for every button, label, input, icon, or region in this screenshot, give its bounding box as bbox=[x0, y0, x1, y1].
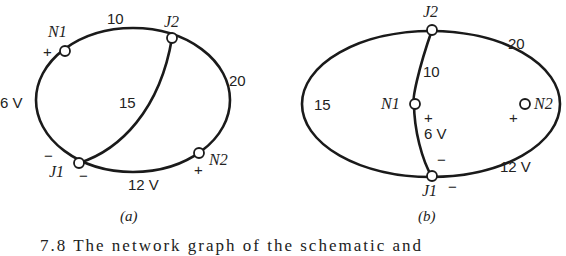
node-label-j2-b: J2 bbox=[423, 4, 438, 19]
source-label-center-b: 6 V bbox=[424, 126, 447, 141]
node-j2-b bbox=[427, 25, 437, 35]
branch-label-center-top-b: 10 bbox=[423, 64, 440, 79]
node-n2-b bbox=[520, 99, 530, 109]
node-label-n1-b: N1 bbox=[381, 96, 400, 111]
branch-label-top-a: 10 bbox=[107, 11, 124, 26]
source-label-bottom-right-b: 12 V bbox=[500, 159, 531, 174]
sign-j1-minus-bottom-a: − bbox=[79, 168, 88, 183]
sign-n1-plus-a: + bbox=[43, 44, 52, 59]
figure-a-label: (a) bbox=[120, 208, 138, 225]
sign-j1-minus-left-a: − bbox=[44, 148, 53, 163]
node-j1-b bbox=[427, 171, 437, 181]
sign-n2-plus-a: + bbox=[194, 162, 203, 177]
node-j2-a bbox=[167, 33, 177, 43]
source-label-left-a: 6 V bbox=[0, 95, 23, 110]
branch-label-chord-a: 15 bbox=[119, 95, 136, 110]
sign-n1-plus-b: + bbox=[424, 110, 433, 125]
figure-caption: 7.8 The network graph of the schematic a… bbox=[40, 236, 423, 256]
sign-j1-minus-b: − bbox=[448, 179, 457, 194]
node-label-n1-a: N1 bbox=[48, 24, 67, 39]
branch-label-left-b: 15 bbox=[314, 97, 331, 112]
node-label-n2-a: N2 bbox=[209, 152, 228, 167]
branch-label-right-a: 20 bbox=[229, 73, 246, 88]
node-label-j1-a: J1 bbox=[49, 164, 64, 179]
sign-center-minus-b: − bbox=[437, 152, 446, 167]
node-label-j2-a: J2 bbox=[164, 14, 179, 29]
branch-label-right-top-b: 20 bbox=[508, 36, 525, 51]
node-label-j1-b: J1 bbox=[422, 183, 437, 198]
node-n1-a bbox=[60, 46, 70, 56]
node-n1-b bbox=[410, 99, 420, 109]
sign-n2-plus-b: + bbox=[509, 110, 518, 125]
node-n2-a bbox=[194, 148, 204, 158]
figure-b-label: (b) bbox=[418, 208, 436, 225]
source-label-bottom-a: 12 V bbox=[128, 177, 159, 192]
node-label-n2-b: N2 bbox=[534, 96, 553, 111]
